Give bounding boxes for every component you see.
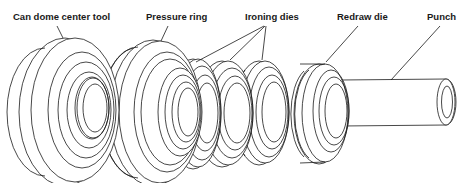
label-ironing-dies: Ironing dies [245, 11, 299, 22]
label-punch: Punch [427, 11, 456, 22]
label-redraw-die: Redraw die [337, 11, 388, 22]
can-dome-center-tool-part [7, 38, 119, 183]
redraw-die-part [291, 64, 349, 164]
punch-part [333, 79, 456, 126]
tooling-diagram: Can dome center tool Pressure ring Ironi… [0, 0, 464, 183]
label-pressure-ring: Pressure ring [146, 11, 207, 22]
label-can-dome-center-tool: Can dome center tool [13, 11, 110, 22]
